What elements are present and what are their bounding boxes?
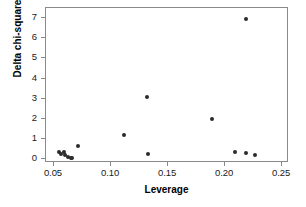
data-point [146, 152, 150, 156]
data-point [70, 156, 74, 160]
x-axis-tick [110, 162, 111, 166]
y-axis-tick [41, 37, 45, 38]
x-axis-label: Leverage [45, 184, 288, 195]
y-axis-tick [41, 57, 45, 58]
y-axis-tick [41, 98, 45, 99]
scatter-plot-figure: 0.050.100.150.200.25 01234567 Leverage D… [0, 0, 306, 207]
x-axis-tick [53, 162, 54, 166]
x-axis-tick [224, 162, 225, 166]
data-point [122, 133, 126, 137]
data-points-layer [46, 8, 287, 161]
plot-area [45, 7, 288, 162]
data-point [210, 117, 214, 121]
data-point [76, 144, 80, 148]
x-axis-tick [167, 162, 168, 166]
x-axis-tick-label: 0.25 [261, 167, 301, 178]
y-axis-tick-label: 0 [23, 152, 37, 163]
y-axis-tick [41, 78, 45, 79]
x-axis-tick-label: 0.15 [147, 167, 187, 178]
x-axis-tick [281, 162, 282, 166]
y-axis-tick [41, 138, 45, 139]
data-point [233, 150, 237, 154]
data-point [253, 153, 257, 157]
data-point [145, 95, 149, 99]
y-axis-tick-label: 4 [23, 72, 37, 83]
x-axis-tick-label: 0.20 [204, 167, 244, 178]
y-axis-tick-label: 2 [23, 112, 37, 123]
x-axis-tick-label: 0.05 [33, 167, 73, 178]
y-axis-tick-label: 6 [23, 31, 37, 42]
y-axis-tick [41, 158, 45, 159]
y-axis-tick-label: 7 [23, 11, 37, 22]
y-axis-tick-label: 1 [23, 132, 37, 143]
y-axis-tick-label: 3 [23, 92, 37, 103]
y-axis-tick-label: 5 [23, 51, 37, 62]
y-axis-label: Delta chi-square [12, 0, 23, 94]
y-axis-tick [41, 17, 45, 18]
x-axis-tick-label: 0.10 [90, 167, 130, 178]
y-axis-tick [41, 118, 45, 119]
data-point [244, 151, 248, 155]
data-point [244, 17, 248, 21]
